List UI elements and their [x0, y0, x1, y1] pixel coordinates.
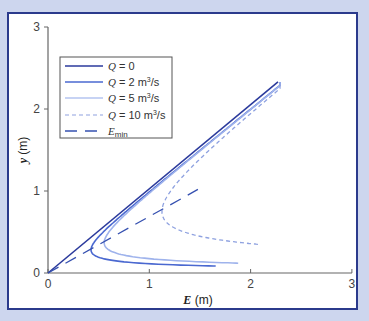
- y-tick-label: 2: [33, 102, 40, 116]
- x-tick-label: 2: [247, 277, 254, 291]
- legend-q0: Q = 0: [108, 60, 135, 72]
- legend: Q = 0 Q = 2 m3/s Q = 5 m3/s Q = 10 m3/s …: [60, 57, 172, 139]
- x-axis-title: E (m): [182, 293, 212, 307]
- x-tick-label: 1: [146, 277, 153, 291]
- legend-q10: Q = 10 m3/s: [108, 109, 166, 121]
- y-tick-label: 1: [33, 184, 40, 198]
- legend-q2: Q = 2 m3/s: [108, 76, 160, 88]
- y-tick-label: 3: [33, 20, 40, 34]
- x-tick-label: 3: [349, 277, 356, 291]
- y-axis-title: y (m): [16, 137, 30, 166]
- legend-q5: Q = 5 m3/s: [108, 92, 160, 104]
- y-tick-label: 0: [33, 266, 40, 280]
- specific-energy-chart: 01230123 E (m) y (m) Q = 0 Q = 2 m3/s Q …: [0, 0, 369, 321]
- x-tick-label: 0: [45, 277, 52, 291]
